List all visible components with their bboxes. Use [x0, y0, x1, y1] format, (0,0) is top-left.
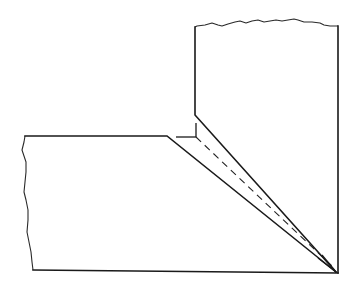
root-detail	[176, 123, 196, 137]
vertical-member-outline	[195, 26, 338, 273]
vertical-member-break-line	[195, 19, 338, 27]
horizontal-member-break-line	[22, 136, 33, 270]
horizontal-member-top-edge	[25, 136, 336, 272]
horizontal-member	[22, 136, 338, 273]
corner-joint-diagram	[0, 0, 359, 287]
vertical-member	[195, 19, 338, 273]
groove-tip-lines	[318, 255, 336, 272]
horizontal-member-bottom-edge	[33, 270, 338, 273]
groove-centerline	[196, 137, 332, 266]
